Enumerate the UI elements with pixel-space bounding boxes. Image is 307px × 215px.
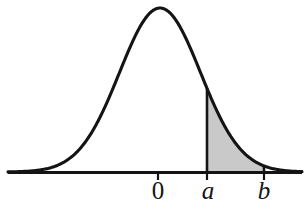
- shaded-area-between-a-and-b: [207, 88, 264, 172]
- x-axis-label-a: a: [193, 178, 223, 203]
- bell-curve-line: [8, 8, 302, 172]
- x-axis-label-b: b: [249, 178, 279, 203]
- normal-distribution-figure: 0 a b: [0, 0, 307, 215]
- x-axis-label-zero: 0: [143, 178, 173, 203]
- shaded-area-group: [207, 88, 264, 172]
